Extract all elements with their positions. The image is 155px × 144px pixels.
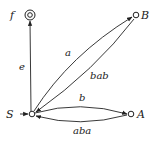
edge-label-a: a	[65, 47, 71, 58]
node-s: S	[6, 108, 35, 121]
node-a: A	[128, 108, 145, 121]
node-label-b: B	[140, 9, 149, 22]
node-label-f: f	[9, 9, 16, 22]
edge-a-to-s: aba	[36, 115, 127, 136]
node-f: f	[9, 9, 35, 22]
edge-label-aba: aba	[73, 125, 91, 136]
edge-label-bab: bab	[90, 70, 109, 81]
edge-label-e: e	[19, 61, 25, 72]
edge-s-to-f: e	[19, 21, 31, 111]
node-b: B	[133, 9, 149, 22]
automaton-diagram: e a bab b aba f B A S	[0, 0, 155, 144]
node-label-a: A	[136, 108, 145, 121]
node-label-s: S	[6, 108, 14, 121]
edge-label-b: b	[79, 92, 85, 103]
